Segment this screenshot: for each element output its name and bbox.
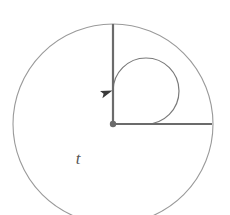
angle-arc	[113, 58, 179, 124]
vertex-dot	[110, 121, 116, 127]
angle-label-t: t	[76, 149, 82, 168]
angle-diagram-svg: Angle t drawn in standard position insid…	[0, 0, 230, 215]
figure-canvas: Angle t drawn in standard position insid…	[0, 0, 230, 215]
arc-arrowhead	[100, 87, 114, 98]
